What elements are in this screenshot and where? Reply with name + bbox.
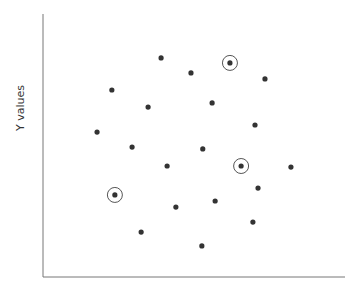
data-point [165,163,170,168]
data-point [112,192,117,197]
data-point [173,204,178,209]
data-point [255,186,260,191]
data-point [239,163,244,168]
y-axis-label: Y values [14,85,27,132]
data-point [210,100,215,105]
data-point [288,164,293,169]
data-point [188,70,193,75]
data-point [199,243,204,248]
data-point [213,198,218,203]
data-point [145,105,150,110]
data-point [139,229,144,234]
y-axis-label-group: Y values [14,85,27,132]
data-point [250,219,255,224]
data-point [227,60,232,65]
scatter-chart: Y values [0,0,363,296]
data-point [94,129,99,134]
data-point [129,144,134,149]
data-point [200,146,205,151]
data-point [262,76,267,81]
data-point [109,87,114,92]
data-point [252,122,257,127]
data-point [158,55,163,60]
data-points [94,55,293,248]
